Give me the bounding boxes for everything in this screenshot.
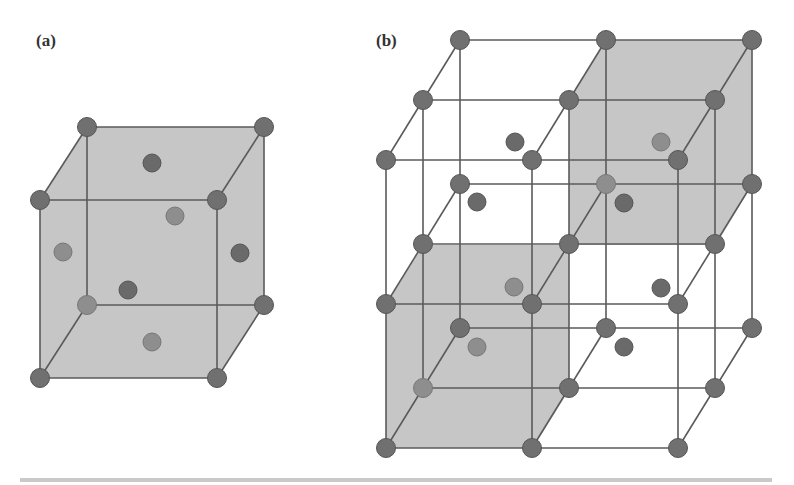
corner-atom (78, 118, 97, 137)
panel-b-lattice-block (377, 31, 762, 458)
face-center-atom-bottom (143, 333, 161, 351)
crystal-lattice-figure: (a) (b) (0, 0, 794, 485)
panel-a-label: (a) (36, 31, 56, 50)
panel-a-fcc-unit-cell (31, 118, 274, 388)
face-center-atom (652, 279, 670, 297)
corner-atom (31, 369, 50, 388)
corner-atom (255, 118, 274, 137)
face-center-atom (615, 194, 633, 212)
face-center-atom (506, 133, 524, 151)
face-center-atom-right (231, 244, 249, 262)
face-center-atom-back (119, 281, 137, 299)
footer-separator-bar (20, 478, 772, 482)
corner-atom (208, 191, 227, 210)
corner-atom (255, 296, 274, 315)
face-center-atom-top (143, 154, 161, 172)
face-center-atom-front (166, 207, 184, 225)
panel-b-label: (b) (376, 31, 397, 50)
corner-atom (78, 296, 97, 315)
face-center-atom (468, 193, 486, 211)
face-center-atom-left (54, 243, 72, 261)
face-center-atom (505, 278, 523, 296)
face-center-atom (615, 338, 633, 356)
face-center-atom (652, 133, 670, 151)
face-center-atom (468, 338, 486, 356)
corner-atom (208, 369, 227, 388)
corner-atom (31, 191, 50, 210)
